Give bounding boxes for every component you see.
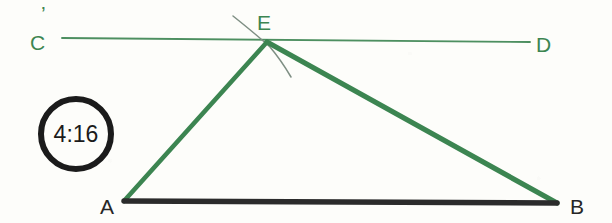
- vertex-label-c: C: [30, 31, 45, 54]
- line-ab: [124, 201, 557, 203]
- diagram-canvas: ’ C D E A B 4:16: [0, 0, 612, 223]
- background-rect: [0, 0, 612, 223]
- vertex-label-a: A: [100, 195, 114, 218]
- vertex-label-d: D: [536, 33, 551, 56]
- timestamp-badge-label: 4:16: [54, 121, 99, 147]
- vertex-label-b: B: [570, 195, 584, 218]
- vertex-label-e: E: [257, 11, 271, 34]
- geometry-figure: ’ C D E A B 4:16: [0, 0, 612, 223]
- c-tick-mark: ’: [41, 2, 46, 25]
